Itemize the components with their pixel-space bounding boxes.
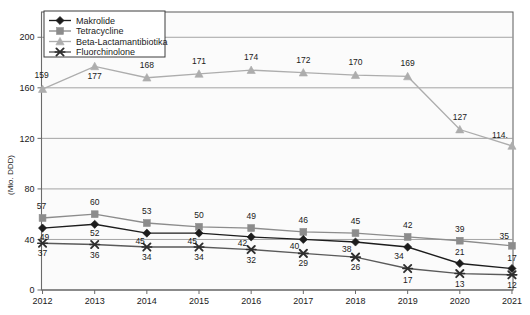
data-point-marker	[509, 242, 516, 249]
x-tick-label: 2021	[502, 296, 522, 306]
data-point-label: 177	[88, 71, 102, 81]
data-point-marker	[39, 215, 46, 222]
data-point-label: 26	[351, 262, 361, 272]
data-point-label: 45	[351, 216, 361, 226]
y-tick-label: 0	[29, 285, 34, 295]
data-point-label: 170	[348, 57, 362, 67]
y-tick-label: 200	[19, 32, 34, 42]
data-point-label: 37	[38, 248, 48, 258]
data-point-label: 49	[246, 211, 256, 221]
data-point-label: 17	[403, 275, 413, 285]
data-point-label: 17	[507, 253, 517, 263]
data-point-label: 32	[246, 255, 256, 265]
data-point-label: 45	[135, 236, 145, 246]
data-point-marker	[456, 237, 463, 244]
y-tick-label: 160	[19, 83, 34, 93]
data-point-marker	[300, 228, 307, 235]
data-point-marker	[91, 211, 98, 218]
data-point-label: 174	[244, 52, 258, 62]
data-point-label: 46	[299, 215, 309, 225]
x-axis-ticks: 2012201320142015201620172018201920202021	[33, 290, 522, 306]
x-tick-label: 2012	[33, 296, 53, 306]
x-tick-label: 2020	[450, 296, 470, 306]
data-point-label: 36	[90, 250, 100, 260]
data-point-label: 52	[90, 228, 100, 238]
x-tick-label: 2016	[241, 296, 261, 306]
data-point-label: 53	[142, 206, 152, 216]
data-point-label: 172	[296, 55, 310, 65]
data-point-marker	[143, 220, 150, 227]
y-tick-label: 80	[24, 184, 34, 194]
data-point-label: 57	[37, 201, 47, 211]
y-tick-label: 40	[24, 235, 34, 245]
data-point-label: 34	[142, 252, 152, 262]
data-point-label: 34	[194, 252, 204, 262]
x-tick-label: 2018	[345, 296, 365, 306]
legend-item-label: Makrolide	[76, 16, 115, 26]
data-point-marker	[248, 225, 255, 232]
data-point-marker	[352, 230, 359, 237]
data-point-label: 38	[342, 244, 352, 254]
legend-item-label: Tetracycline	[76, 26, 124, 36]
data-point-label: 169	[401, 58, 415, 68]
y-axis-title: (Mio. DDD)	[6, 155, 15, 195]
legend-item-label: Beta-Lactamantibiotika	[76, 37, 168, 47]
data-point-label: 159	[34, 70, 48, 80]
legend: MakrolideTetracyclineBeta-Lactamantibiot…	[44, 11, 168, 57]
chart-canvas: 04080120160200(Mio. DDD)2012201320142015…	[0, 0, 530, 315]
data-point-label: 12	[507, 280, 517, 290]
x-tick-label: 2013	[85, 296, 105, 306]
data-point-label: 29	[299, 258, 309, 268]
legend-item-label: Fluorchinolone	[76, 47, 135, 57]
data-point-label: 168	[140, 60, 154, 70]
x-tick-label: 2014	[137, 296, 157, 306]
data-point-label: 49	[40, 232, 50, 242]
data-point-label: 50	[194, 210, 204, 220]
data-point-label: 39	[455, 224, 465, 234]
data-point-label: 60	[90, 197, 100, 207]
data-point-label: 127	[453, 112, 467, 122]
data-point-label: 42	[238, 238, 248, 248]
data-point-label: 40	[290, 241, 300, 251]
x-tick-label: 2015	[189, 296, 209, 306]
data-point-label: 35	[499, 231, 509, 241]
x-tick-label: 2017	[293, 296, 313, 306]
x-tick-label: 2019	[398, 296, 418, 306]
data-point-label: 13	[455, 279, 465, 289]
data-point-label: 21	[455, 247, 465, 257]
data-point-label: 114.	[492, 130, 508, 140]
line-chart-figure: 04080120160200(Mio. DDD)2012201320142015…	[0, 0, 530, 315]
data-point-marker	[57, 28, 64, 35]
data-point-label: 45	[188, 236, 198, 246]
data-point-label: 42	[403, 220, 413, 230]
data-point-marker	[404, 234, 411, 241]
data-point-label: 171	[192, 56, 206, 66]
data-point-label: 34	[394, 251, 404, 261]
y-tick-label: 120	[19, 134, 34, 144]
